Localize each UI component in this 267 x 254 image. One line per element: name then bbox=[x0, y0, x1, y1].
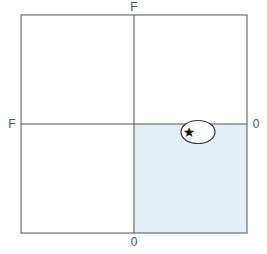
star-icon: ★ bbox=[183, 124, 196, 140]
label-right: 0 bbox=[253, 117, 260, 131]
quadrant-diagram: ★ F F 0 0 bbox=[0, 0, 267, 254]
label-top: F bbox=[130, 0, 137, 14]
label-bottom: 0 bbox=[131, 235, 138, 249]
label-left: F bbox=[8, 117, 15, 131]
